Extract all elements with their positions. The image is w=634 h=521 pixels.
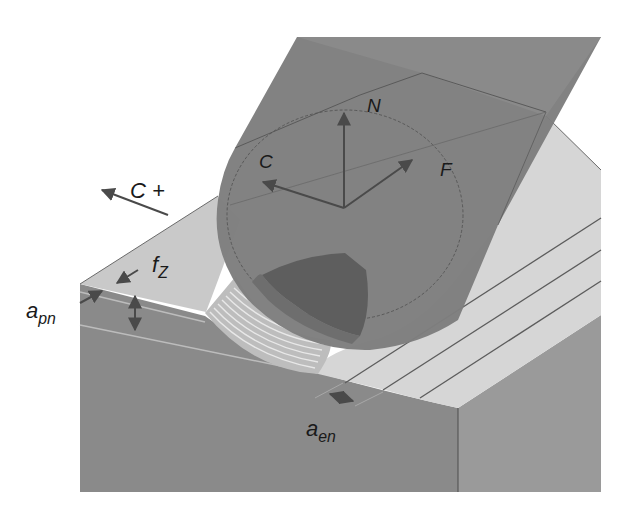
- feed-per-tooth-label: fZ: [152, 254, 168, 280]
- frame-n-label: N: [367, 96, 381, 115]
- radial-depth-label: aen: [306, 418, 336, 444]
- milling-diagram: C + C N F fZ apn aen: [0, 0, 634, 521]
- axial-depth-label: apn: [26, 300, 56, 326]
- frame-c-label: C: [259, 152, 273, 171]
- frame-f-label: F: [440, 160, 452, 179]
- cutting-direction-label: C +: [130, 180, 165, 202]
